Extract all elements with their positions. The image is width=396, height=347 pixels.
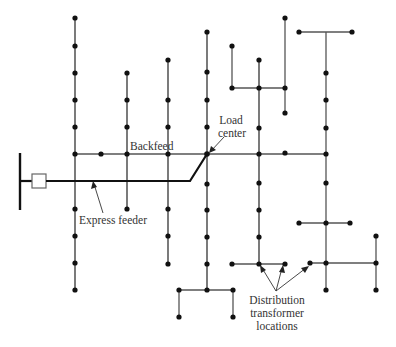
node: [323, 260, 328, 265]
node: [323, 180, 328, 185]
node: [256, 180, 261, 185]
node: [176, 287, 181, 292]
node: [165, 57, 170, 62]
node: [72, 15, 77, 20]
arrowhead-icon: [91, 181, 97, 189]
node: [204, 69, 209, 74]
node: [72, 97, 77, 102]
node: [204, 287, 209, 292]
node: [124, 151, 129, 156]
arrowhead-icon: [260, 265, 266, 273]
node: [72, 70, 77, 75]
node: [230, 314, 235, 319]
node: [256, 151, 261, 156]
node: [373, 260, 378, 265]
node: [204, 29, 209, 34]
load-center-label-line1: Load: [219, 114, 243, 126]
distribution-label-line1: Distribution: [249, 294, 305, 306]
node: [229, 43, 234, 48]
node: [72, 151, 77, 156]
express-feeder-arrow: [94, 184, 103, 213]
express-feeder-label: Express feeder: [79, 214, 147, 227]
node: [282, 110, 287, 115]
node: [256, 57, 261, 62]
distribution-label-line3: locations: [256, 320, 298, 332]
node: [230, 287, 235, 292]
node: [256, 234, 261, 239]
node: [165, 97, 170, 102]
backfeed-label: Backfeed: [130, 140, 174, 152]
node: [165, 261, 170, 266]
substation: [20, 153, 46, 210]
node: [229, 85, 234, 90]
node: [323, 151, 328, 156]
node: [282, 150, 287, 155]
node: [204, 207, 209, 212]
distribution-feeder-diagram: Backfeed Load center Express feeder Dist…: [0, 0, 396, 347]
node: [323, 125, 328, 130]
node: [204, 124, 209, 129]
node: [296, 220, 301, 225]
node: [296, 29, 301, 34]
node: [176, 314, 181, 319]
node: [323, 220, 328, 225]
node: [282, 85, 287, 90]
node: [256, 85, 261, 90]
node: [323, 287, 328, 292]
node: [72, 43, 77, 48]
node: [124, 97, 129, 102]
node: [373, 287, 378, 292]
node: [165, 151, 170, 156]
distribution-label-line2: transformer: [250, 307, 304, 319]
load-center-node: [204, 151, 210, 157]
node: [72, 124, 77, 129]
node: [256, 207, 261, 212]
node: [165, 233, 170, 238]
node: [204, 261, 209, 266]
transformer-nodes: [72, 15, 378, 319]
node: [323, 97, 328, 102]
node: [124, 70, 129, 75]
node: [124, 206, 129, 211]
node: [307, 260, 312, 265]
breaker-box: [32, 174, 46, 188]
node: [347, 220, 352, 225]
node: [373, 233, 378, 238]
node: [98, 151, 103, 156]
node: [204, 181, 209, 186]
node: [165, 206, 170, 211]
node: [124, 124, 129, 129]
node: [323, 70, 328, 75]
node: [72, 260, 77, 265]
node: [204, 234, 209, 239]
node: [165, 124, 170, 129]
node: [256, 125, 261, 130]
node: [204, 97, 209, 102]
node: [282, 15, 287, 20]
arrowhead-icon: [301, 266, 309, 273]
dist-arrow-1: [262, 268, 276, 291]
node: [349, 29, 354, 34]
node: [72, 206, 77, 211]
node: [72, 233, 77, 238]
laterals: [75, 18, 376, 317]
load-center-label-line2: center: [218, 127, 246, 139]
node: [72, 287, 77, 292]
node: [229, 261, 234, 266]
